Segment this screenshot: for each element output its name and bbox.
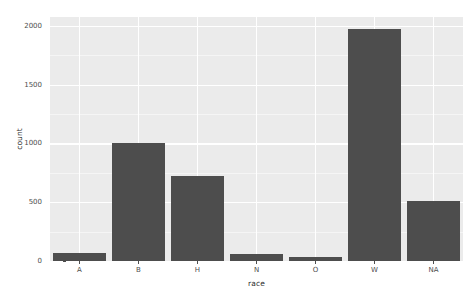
gridline-major-x (315, 17, 316, 261)
y-axis-ticks: 0500100015002000 (18, 0, 42, 305)
bar-n[interactable] (230, 254, 283, 261)
y-tick-label: 2000 (18, 21, 42, 31)
gridline-major-x (79, 17, 80, 261)
gridline-major-x (256, 17, 257, 261)
y-tick-label: 0 (18, 256, 42, 266)
x-tick-mark (197, 261, 198, 264)
x-tick-mark (79, 261, 80, 264)
y-tick-label: 1000 (18, 138, 42, 148)
x-tick-mark (433, 261, 434, 264)
x-tick-label-n: N (227, 266, 287, 274)
y-tick: 2000 (18, 21, 42, 31)
x-tick-label-a: A (50, 266, 110, 274)
x-tick-label-w: W (345, 266, 405, 274)
y-tick: 1000 (18, 138, 42, 148)
bar-chart: count 0500100015002000 ABHNOWNA race (0, 0, 476, 305)
x-tick-label-o: O (286, 266, 346, 274)
x-tick-label-na: NA (404, 266, 464, 274)
y-tick-label: 1500 (18, 80, 42, 90)
bar-b[interactable] (112, 143, 165, 261)
x-tick-mark (315, 261, 316, 264)
bar-w[interactable] (348, 29, 401, 261)
bar-a[interactable] (53, 253, 106, 261)
y-tick: 500 (18, 197, 42, 207)
y-tick: 1500 (18, 80, 42, 90)
bar-na[interactable] (407, 201, 460, 261)
x-axis-title: race (50, 279, 463, 288)
x-tick-mark (138, 261, 139, 264)
x-tick-label-h: H (168, 266, 228, 274)
plot-panel (50, 17, 463, 261)
x-tick-mark (374, 261, 375, 264)
x-tick-label-b: B (109, 266, 169, 274)
y-tick-label: 500 (18, 197, 42, 207)
bar-h[interactable] (171, 176, 224, 261)
y-tick: 0 (18, 256, 42, 266)
x-tick-mark (256, 261, 257, 264)
